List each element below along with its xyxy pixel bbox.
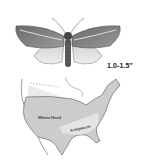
wheat-head-region-label: Wheat Head — [38, 115, 61, 120]
size-label: 1.0-1.5" — [107, 62, 133, 69]
range-map — [10, 75, 135, 157]
